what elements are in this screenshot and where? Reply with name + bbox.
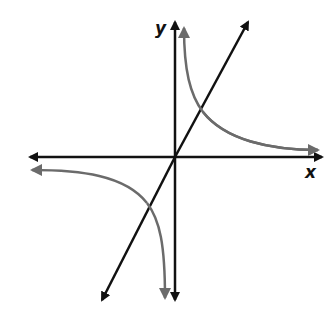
y-axis-label: y bbox=[155, 18, 166, 38]
x-axis-label: x bbox=[305, 162, 316, 182]
hyperbola-branch-quadrant-1-tail bbox=[203, 112, 318, 150]
hyperbola-branch-quadrant-3-tail bbox=[147, 203, 165, 298]
hyperbola-branch-quadrant-3 bbox=[32, 170, 147, 203]
graph-canvas bbox=[0, 0, 335, 312]
hyperbola-branch-quadrant-1 bbox=[184, 28, 318, 150]
